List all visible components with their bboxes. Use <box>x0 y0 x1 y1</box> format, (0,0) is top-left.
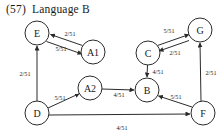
node-g[interactable]: G <box>188 18 212 42</box>
node-label-g: G <box>196 25 203 36</box>
edge-label-e-a1: 5/51 <box>55 45 66 52</box>
nodes-group: E A1 C G A2 B <box>25 18 215 125</box>
edge-label-a2-b: 4/51 <box>113 91 124 98</box>
node-e[interactable]: E <box>25 21 49 45</box>
edge-label-a1-e: 2/51 <box>64 30 75 37</box>
edge-label-d-e: 2/51 <box>19 70 30 77</box>
node-label-a2: A2 <box>84 83 96 94</box>
edge-c-b <box>147 65 148 77</box>
edge-label-d-a2: 5/51 <box>54 94 65 101</box>
node-a1[interactable]: A1 <box>81 40 105 64</box>
graph-canvas: E A1 C G A2 B <box>0 0 223 135</box>
node-label-b: B <box>144 85 151 96</box>
node-f[interactable]: F <box>191 101 215 125</box>
node-a2[interactable]: A2 <box>78 76 102 100</box>
node-label-c: C <box>145 48 152 59</box>
diagram-page: (57)Language B <box>0 0 223 135</box>
edge-f-g <box>200 43 201 101</box>
node-d[interactable]: D <box>25 101 49 125</box>
node-c[interactable]: C <box>136 41 160 65</box>
edge-label-f-g: 2/51 <box>205 69 216 76</box>
edge-d-f <box>49 114 190 115</box>
edge-label-d-f: 4/51 <box>116 124 127 131</box>
edge-label-c-g: 5/51 <box>163 27 174 34</box>
node-label-d: D <box>33 108 40 119</box>
edge-label-f-b: 5/51 <box>170 93 181 100</box>
node-b[interactable]: B <box>135 78 159 102</box>
edge-label-c-b: 4/51 <box>152 68 163 75</box>
node-label-a1: A1 <box>87 47 99 58</box>
edge-label-g-c: 2/51 <box>169 49 180 56</box>
edge-c-g <box>158 35 190 46</box>
node-label-f: F <box>200 108 206 119</box>
node-label-e: E <box>34 28 40 39</box>
